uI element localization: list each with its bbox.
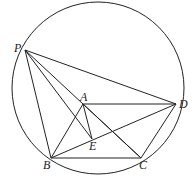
point-labels: P A D E B C <box>13 41 188 172</box>
label-C: C <box>139 158 148 172</box>
label-P: P <box>13 41 22 55</box>
segment-PD <box>25 50 176 104</box>
label-B: B <box>43 158 51 172</box>
geometry-diagram: P A D E B C <box>0 0 195 181</box>
segment-PB <box>25 50 51 158</box>
label-A: A <box>79 90 88 104</box>
label-D: D <box>178 97 188 111</box>
circumcircle <box>12 2 184 174</box>
segment-AB <box>51 104 83 158</box>
label-E: E <box>88 139 97 153</box>
segments <box>25 50 176 158</box>
